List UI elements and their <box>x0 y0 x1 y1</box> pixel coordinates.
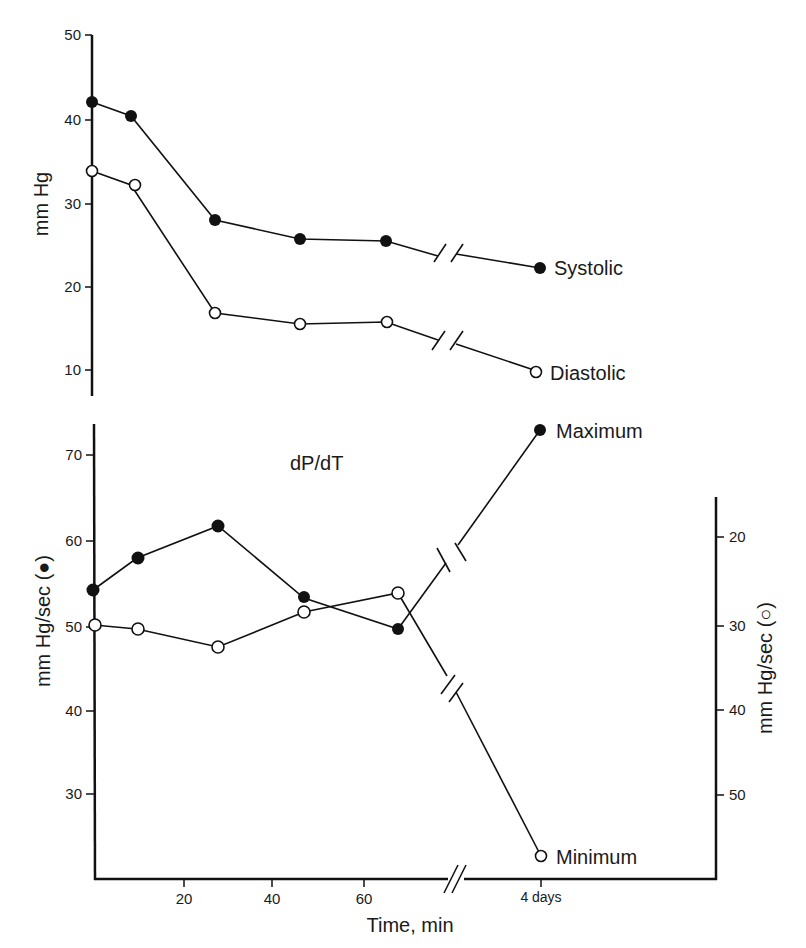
minimum-label: Minimum <box>556 846 637 868</box>
systolic-label: Systolic <box>554 257 623 279</box>
diastolic-break-icon <box>432 331 463 350</box>
bottom-panel: 70 60 50 40 30 mm Hg/sec (●) 20 30 40 50… <box>32 420 776 936</box>
maximum-label: Maximum <box>556 420 643 442</box>
top-panel: 50 40 30 20 10 mm Hg Systolic <box>30 26 626 396</box>
x-tick-4days: 4 days <box>520 889 561 905</box>
top-y-axis-label: mm Hg <box>30 172 52 236</box>
dpdt-title: dP/dT <box>290 452 343 474</box>
top-tick-20: 20 <box>64 278 81 295</box>
left-tick-50: 50 <box>65 618 82 635</box>
top-tick-10: 10 <box>64 361 81 378</box>
right-tick-30: 30 <box>729 617 746 634</box>
left-tick-60: 60 <box>65 532 82 549</box>
diastolic-line-b <box>456 344 540 372</box>
x-axis-label: Time, min <box>366 914 453 936</box>
right-tick-40: 40 <box>729 701 746 718</box>
systolic-markers <box>86 96 546 274</box>
systolic-line-a <box>92 102 438 256</box>
right-tick-50: 50 <box>729 786 746 803</box>
x-tick-40: 40 <box>264 890 281 907</box>
right-y-axis-label: mm Hg/sec (○) <box>754 602 776 734</box>
diastolic-line-a <box>92 171 438 340</box>
minimum-line-b <box>456 692 541 856</box>
diastolic-label: Diastolic <box>550 362 626 384</box>
left-tick-30: 30 <box>65 785 82 802</box>
top-tick-50: 50 <box>64 26 81 43</box>
maximum-line-a <box>93 526 446 629</box>
chart-figure: 50 40 30 20 10 mm Hg Systolic <box>0 0 806 948</box>
minimum-markers <box>89 587 547 862</box>
x-tick-60: 60 <box>356 890 373 907</box>
maximum-break-icon <box>437 543 466 572</box>
x-tick-20: 20 <box>176 890 193 907</box>
maximum-line-b <box>458 430 540 545</box>
systolic-break-icon <box>434 244 463 262</box>
left-tick-40: 40 <box>65 702 82 719</box>
top-tick-30: 30 <box>64 195 81 212</box>
left-tick-70: 70 <box>65 446 82 463</box>
top-tick-40: 40 <box>64 111 81 128</box>
minimum-line-a <box>94 593 447 676</box>
left-y-axis-label: mm Hg/sec (●) <box>32 555 54 687</box>
right-tick-20: 20 <box>729 528 746 545</box>
diastolic-markers <box>87 166 542 378</box>
left-y-axis <box>94 424 95 880</box>
systolic-line-b <box>456 254 540 268</box>
